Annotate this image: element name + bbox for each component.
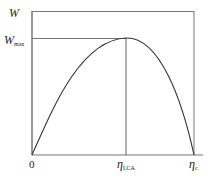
- eta-lca-label: ηLCA: [117, 157, 136, 171]
- y-axis-label: W: [9, 6, 20, 20]
- origin-label: 0: [29, 158, 35, 170]
- chart: W Wmax 0 ηLCA ηc: [0, 0, 212, 180]
- eta-c-label: ηc: [189, 157, 198, 171]
- w-curve: [32, 38, 194, 155]
- wmax-label: Wmax: [4, 33, 24, 47]
